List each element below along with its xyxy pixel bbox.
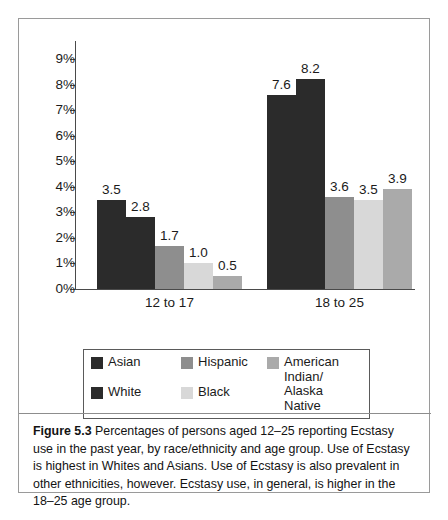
- bar-rect: [383, 189, 412, 289]
- legend-item-label: White: [108, 385, 141, 400]
- legend-swatch-icon: [181, 387, 193, 399]
- x-axis-group-label: 12 to 17: [97, 295, 242, 310]
- y-axis-tick: 8%: [19, 85, 75, 86]
- y-axis-tick-label: 3%: [41, 205, 75, 219]
- y-axis-tick-label: 6%: [41, 129, 75, 143]
- y-axis-tick: 3%: [19, 212, 75, 213]
- y-axis-tick: 5%: [19, 161, 75, 162]
- bar: 1.7: [155, 246, 184, 289]
- bar-rect: [184, 263, 213, 289]
- y-axis-tick: 2%: [19, 238, 75, 239]
- bar: 3.9: [383, 189, 412, 289]
- bar: 2.8: [126, 217, 155, 289]
- x-axis-group-label: 18 to 25: [267, 295, 412, 310]
- y-axis-tick: 1%: [19, 263, 75, 264]
- y-axis-tick-label: 5%: [41, 154, 75, 168]
- bar-value-label: 0.5: [218, 259, 237, 273]
- x-axis-line: [75, 289, 415, 290]
- y-axis-tick-label: 1%: [41, 256, 75, 270]
- y-axis-tick: 7%: [19, 110, 75, 111]
- bar: 1.0: [184, 263, 213, 289]
- legend-item-label: Black: [198, 385, 230, 400]
- bar-rect: [325, 197, 354, 289]
- y-axis-tick-label: 0%: [41, 282, 75, 296]
- figure-container: 9%8%7%6%5%4%3%2%1%0% 3.52.81.71.00.57.68…: [18, 18, 430, 493]
- bar-value-label: 3.5: [102, 183, 121, 197]
- legend-item-label: Asian: [108, 355, 141, 370]
- bar: 3.5: [354, 200, 383, 289]
- caption-figure-number: Figure 5.3: [33, 424, 92, 438]
- bar: 3.6: [325, 197, 354, 289]
- chart-plot-area: 9%8%7%6%5%4%3%2%1%0% 3.52.81.71.00.57.68…: [19, 19, 431, 331]
- legend-item: American Indian/ Alaska Native: [267, 355, 362, 413]
- bar-rect: [126, 217, 155, 289]
- bar-rect: [354, 200, 383, 289]
- legend-item: Hispanic: [181, 355, 261, 383]
- bar-value-label: 1.7: [160, 229, 179, 243]
- legend-swatch-icon: [91, 357, 103, 369]
- bar-rect: [213, 276, 242, 289]
- y-axis-tick-label: 8%: [41, 78, 75, 92]
- bar-rect: [97, 200, 126, 289]
- caption-divider: [19, 413, 431, 414]
- y-axis-tick: 0%: [19, 289, 75, 290]
- bar-rect: [296, 79, 325, 289]
- legend-item-label: Hispanic: [198, 355, 248, 370]
- bar-rect: [155, 246, 184, 289]
- y-axis-tick: 9%: [19, 59, 75, 60]
- y-axis-tick-label: 7%: [41, 103, 75, 117]
- legend-item: White: [91, 385, 175, 413]
- bar-value-label: 7.6: [272, 78, 291, 92]
- legend-swatch-icon: [267, 357, 279, 369]
- bar-rect: [267, 95, 296, 289]
- legend-item: Black: [181, 385, 261, 413]
- y-axis-tick-label: 9%: [41, 52, 75, 66]
- bar-value-label: 1.0: [189, 246, 208, 260]
- legend-swatch-icon: [181, 357, 193, 369]
- bar: 0.5: [213, 276, 242, 289]
- bar-value-label: 8.2: [301, 62, 320, 76]
- y-axis-line: [75, 41, 76, 290]
- y-axis-tick: 6%: [19, 136, 75, 137]
- bar-value-label: 3.5: [359, 183, 378, 197]
- y-axis-tick-label: 2%: [41, 231, 75, 245]
- legend-item: Asian: [91, 355, 175, 383]
- legend-swatch-icon: [91, 387, 103, 399]
- y-axis-tick: 4%: [19, 187, 75, 188]
- bar-value-label: 3.9: [388, 172, 407, 186]
- figure-caption: Figure 5.3 Percentages of persons aged 1…: [33, 423, 417, 511]
- bar: 3.5: [97, 200, 126, 289]
- chart-legend: AsianHispanicAmerican Indian/ Alaska Nat…: [83, 349, 370, 419]
- y-axis-tick-label: 4%: [41, 180, 75, 194]
- bar: 7.6: [267, 95, 296, 289]
- bar-value-label: 3.6: [330, 180, 349, 194]
- bar: 8.2: [296, 79, 325, 289]
- legend-item-label: American Indian/ Alaska Native: [284, 355, 362, 413]
- bar-value-label: 2.8: [131, 200, 150, 214]
